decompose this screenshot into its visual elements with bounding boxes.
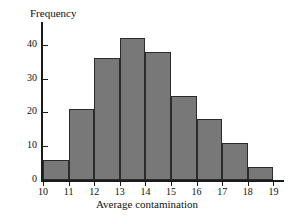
histogram-bar xyxy=(248,167,274,181)
y-tick-mark xyxy=(43,79,48,80)
y-tick-label: 20 xyxy=(27,105,37,116)
y-tick: 30 xyxy=(41,79,48,80)
histogram-bar xyxy=(171,96,197,180)
y-tick-mark xyxy=(43,180,48,181)
histogram-bar xyxy=(197,119,223,180)
histogram-bar xyxy=(222,143,248,180)
y-tick-mark xyxy=(43,146,48,147)
histogram-bar xyxy=(94,58,120,180)
x-tick-label: 15 xyxy=(161,186,181,197)
y-tick-label: 0 xyxy=(32,173,37,184)
plot-area: 010203040 10111213141516171819 xyxy=(41,22,278,182)
y-tick: 10 xyxy=(41,146,48,147)
x-axis-title: Average contamination xyxy=(0,198,294,210)
histogram-bar xyxy=(69,109,95,180)
x-tick-label: 19 xyxy=(263,186,283,197)
y-tick-label: 10 xyxy=(27,139,37,150)
x-tick-label: 10 xyxy=(33,186,53,197)
x-tick-label: 12 xyxy=(84,186,104,197)
y-axis-line xyxy=(41,22,43,182)
y-tick-mark xyxy=(43,45,48,46)
x-tick-label: 13 xyxy=(110,186,130,197)
y-axis-title: Frequency xyxy=(30,7,76,19)
histogram-bar xyxy=(145,52,171,180)
x-tick-label: 17 xyxy=(212,186,232,197)
y-tick-label: 40 xyxy=(27,38,37,49)
histogram-bar xyxy=(120,38,146,180)
y-tick-mark xyxy=(43,112,48,113)
y-tick-label: 30 xyxy=(27,72,37,83)
x-tick-label: 18 xyxy=(238,186,258,197)
y-tick: 0 xyxy=(41,180,48,181)
y-tick: 20 xyxy=(41,112,48,113)
histogram-chart: Frequency 010203040 10111213141516171819… xyxy=(0,0,294,221)
x-tick-label: 16 xyxy=(187,186,207,197)
x-tick-label: 14 xyxy=(135,186,155,197)
x-tick-label: 11 xyxy=(59,186,79,197)
histogram-bar xyxy=(43,160,69,180)
y-tick: 40 xyxy=(41,45,48,46)
